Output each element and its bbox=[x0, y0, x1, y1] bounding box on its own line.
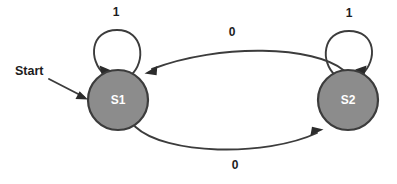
s2-to-s1-arrow-head bbox=[145, 66, 158, 75]
state-node-s2-label: S2 bbox=[341, 93, 356, 107]
state-node-s1[interactable]: S1 bbox=[88, 70, 148, 130]
transition-label-s1-self: 1 bbox=[113, 5, 120, 19]
state-diagram-canvas: Start 1 1 0 0 bbox=[0, 0, 397, 184]
s1-to-s2-curve-path bbox=[135, 127, 317, 150]
start-marker: Start bbox=[15, 64, 88, 99]
transition-s1-to-s2: 0 bbox=[135, 127, 324, 173]
state-node-s2[interactable]: S2 bbox=[318, 70, 378, 130]
state-node-s1-label: S1 bbox=[111, 93, 126, 107]
start-label: Start bbox=[15, 64, 44, 78]
s1-to-s2-arrow-head bbox=[310, 127, 323, 136]
transition-label-s1-to-s2: 0 bbox=[232, 158, 239, 172]
transition-label-s2-self: 1 bbox=[346, 6, 353, 20]
transition-s2-to-s1: 0 bbox=[145, 25, 345, 75]
transition-s1-self: 1 bbox=[94, 5, 140, 78]
s2-to-s1-curve-path bbox=[152, 51, 344, 71]
transition-label-s2-to-s1: 0 bbox=[229, 25, 236, 39]
transition-s2-self: 1 bbox=[326, 6, 372, 79]
state-diagram-svg: Start 1 1 0 0 bbox=[0, 0, 397, 184]
